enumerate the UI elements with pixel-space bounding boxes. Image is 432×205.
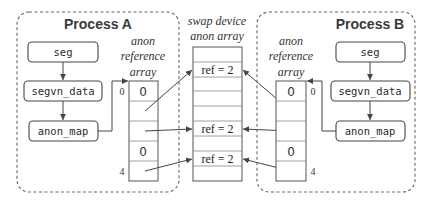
swap-cell-7: ref = 2 [201,152,233,166]
array-label-b-2: reference [269,49,314,63]
anon-map-label-b: anon_map [345,125,396,138]
swap-cell-5: ref = 2 [201,122,233,136]
process-b-title: Process B [336,16,404,32]
swap-label-2: anon array [190,29,244,43]
index-first-b: 0 [311,86,316,97]
array-label-a-3: array [130,65,157,79]
swap-label-1: swap device [188,14,247,28]
seg-label-a: seg [54,46,73,58]
array-label-b-3: array [278,65,305,79]
segvn-data-label-a: segvn_data [31,85,94,98]
array-label-a-1: anon [131,34,155,48]
array-label-b-1: anon [279,34,303,48]
segvn-data-label-b: segvn_data [338,85,401,98]
process-b-group: Process B seg segvn_data anon_map anon r… [257,12,415,192]
seg-label-b: seg [361,46,380,58]
cell-b-0: 0 [287,85,295,99]
swap-cell-1: ref = 2 [201,63,233,77]
index-last-a: 4 [120,166,125,177]
cell-a-0: 0 [139,85,147,99]
cell-a-3: 0 [139,145,147,159]
index-first-a: 0 [120,86,125,97]
index-last-b: 4 [311,166,316,177]
cell-b-3: 0 [287,145,295,159]
anon-map-label-a: anon_map [38,125,89,138]
anon-sharing-diagram: Process A seg segvn_data anon_map anon r… [0,0,432,205]
process-a-title: Process A [64,16,132,32]
swap-device-group: swap device anon array ref = 2 ref = 2 r… [188,14,247,181]
array-label-a-2: reference [121,49,166,63]
